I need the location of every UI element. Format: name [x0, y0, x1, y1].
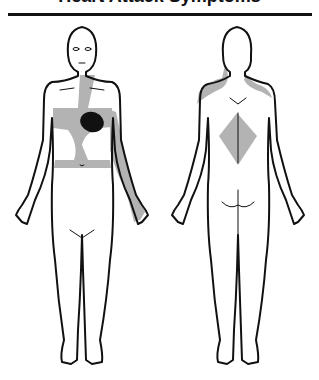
- back-body-figure: [172, 27, 304, 364]
- body-diagram: [0, 0, 319, 380]
- front-body-figure: [16, 27, 148, 364]
- front-pain-regions: [53, 75, 145, 222]
